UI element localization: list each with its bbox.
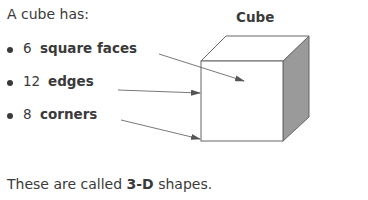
cube-diagram [0, 0, 368, 200]
footer-term: 3-D [127, 176, 154, 192]
footer-text: These are called 3-D shapes. [7, 176, 212, 192]
arrow-edges [118, 90, 200, 93]
footer-prefix: These are called [7, 176, 127, 192]
footer-suffix: shapes. [154, 176, 212, 192]
arrow-corners [121, 120, 200, 139]
cube-front-face [201, 61, 283, 141]
